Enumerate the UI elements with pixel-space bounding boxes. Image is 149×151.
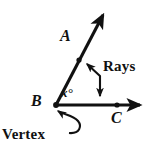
rays-callout-label: Rays: [103, 59, 135, 74]
point-a-label: A: [60, 28, 71, 44]
point-b-label: B: [31, 93, 42, 109]
angle-measure-label: x°: [61, 86, 73, 99]
vertex-callout-arrow: [58, 111, 80, 133]
rays-callout-arrow: [87, 64, 100, 96]
vertex-point-b: [53, 102, 59, 108]
point-c-dot: [114, 102, 119, 107]
vertex-callout-label: Vertex: [2, 127, 45, 142]
angle-diagram: A B C x° Rays Vertex: [0, 0, 149, 151]
point-c-label: C: [111, 110, 122, 126]
point-a-dot: [76, 57, 81, 62]
